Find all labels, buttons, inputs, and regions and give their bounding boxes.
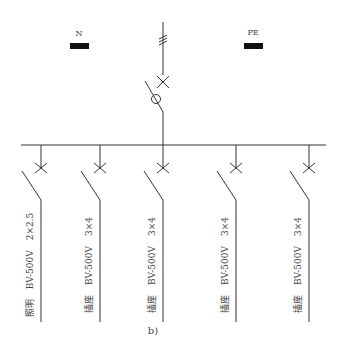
branch-cable: BV-500V [147,246,157,286]
branch-name: 插座 [219,295,230,313]
branch-switch-blade [22,171,41,200]
branch-label: 插座BV-500V3×4 [219,217,230,313]
pe-terminal-bar [244,43,263,49]
fuse-switch-icon [145,81,163,112]
three-conductor-ticks-icon [159,35,167,45]
branch-cable: BV-500V [25,250,35,290]
circuit-breaker-icon [157,76,169,88]
branch-spec: 2×2.5 [25,212,35,240]
branch-name: 插座 [146,295,157,313]
branch-switch-blade [290,171,309,200]
branch-label: 插座BV-500V3×4 [146,217,157,313]
branch-switch-blade [144,171,163,200]
caption: b) [148,325,158,336]
branch-spec: 3×4 [220,217,230,236]
branch-name: 插座 [292,295,303,313]
branch-spec: 3×4 [84,217,94,236]
branch-circuit: 插座BV-500V3×4 [81,145,106,322]
branch-cable: BV-500V [220,246,230,286]
branch-spec: 3×4 [147,217,157,236]
pe-terminal-label: PE [247,28,258,37]
branch-cable: BV-500V [84,246,94,286]
branch-spec: 3×4 [293,217,303,236]
branch-circuit: 插座BV-500V3×4 [144,145,169,322]
branch-circuit: 照明BV-500V2×2.5 [22,145,47,322]
branch-switch-blade [81,171,100,200]
incoming-feeder [145,22,169,145]
branch-circuit: 插座BV-500V3×4 [217,145,242,322]
branch-switch-blade [217,171,236,200]
branch-cable: BV-500V [293,246,303,286]
branch-label: 插座BV-500V3×4 [83,217,94,313]
branch-circuits: 照明BV-500V2×2.5插座BV-500V3×4插座BV-500V3×4插座… [22,145,315,322]
n-terminal-bar [70,43,89,49]
branch-name: 插座 [83,295,94,313]
branch-name: 照明 [25,299,35,317]
n-terminal-label: N [76,29,83,38]
branch-label: 插座BV-500V3×4 [292,217,303,313]
wiring-diagram: N PE 照明BV-500V2×2.5插座BV-500V3×4插座BV-500V… [0,0,341,359]
branch-label: 照明BV-500V2×2.5 [25,212,35,317]
branch-circuit: 插座BV-500V3×4 [290,145,315,322]
